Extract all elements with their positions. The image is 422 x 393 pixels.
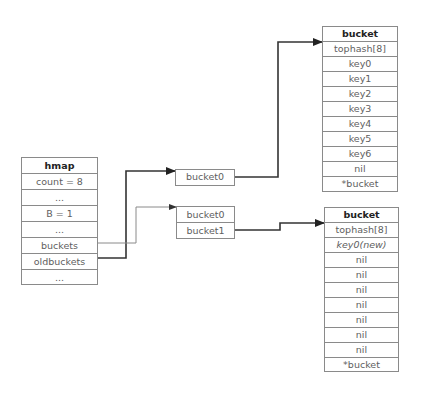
new-array-bucket1: bucket1 [177, 223, 234, 239]
bucket-title: bucket [323, 27, 397, 42]
old-bucket0-pointer [235, 42, 322, 177]
hmap-field-count: count = 8 [22, 174, 97, 190]
bucket-field-overflow: *bucket [325, 358, 398, 373]
bucket-field-key5: key5 [323, 132, 397, 147]
bucket-field-key1: key1 [323, 72, 397, 87]
buckets-pointer [98, 207, 176, 243]
hmap-field-ellipsis: ... [22, 190, 97, 206]
bucket-field-nil: nil [323, 162, 397, 177]
oldbuckets-pointer [98, 171, 175, 258]
old-array-bucket0: bucket0 [176, 170, 234, 185]
bucket-field-nil: nil [325, 313, 398, 328]
new-bucket-struct: bucket tophash[8] key0(new) nil nil nil … [324, 207, 399, 372]
bucket-field-key0: key0 [323, 57, 397, 72]
bucket-field-nil: nil [325, 283, 398, 298]
bucket-field-key2: key2 [323, 87, 397, 102]
bucket-field-nil: nil [325, 298, 398, 313]
bucket-field-key6: key6 [323, 147, 397, 162]
bucket-title: bucket [325, 208, 398, 223]
bucket-field-key0-new: key0(new) [325, 238, 398, 253]
bucket-field-nil: nil [325, 343, 398, 358]
new-array-bucket0: bucket0 [177, 207, 234, 223]
hmap-title: hmap [22, 158, 97, 174]
bucket-field-overflow: *bucket [323, 177, 397, 192]
hmap-field-buckets: buckets [22, 238, 97, 254]
bucket-field-nil: nil [325, 253, 398, 268]
bucket-field-tophash: tophash[8] [323, 42, 397, 57]
bucket-field-tophash: tophash[8] [325, 223, 398, 238]
bucket-field-nil: nil [325, 268, 398, 283]
bucket-field-key4: key4 [323, 117, 397, 132]
hmap-struct: hmap count = 8 ... B = 1 ... buckets old… [21, 157, 98, 285]
bucket-field-key3: key3 [323, 102, 397, 117]
new-bucket1-pointer [235, 223, 324, 230]
hmap-field-ellipsis: ... [22, 270, 97, 286]
bucket-field-nil: nil [325, 328, 398, 343]
hmap-field-ellipsis: ... [22, 222, 97, 238]
old-bucket-array: bucket0 [175, 169, 235, 186]
new-bucket-array: bucket0 bucket1 [176, 206, 235, 239]
old-bucket-struct: bucket tophash[8] key0 key1 key2 key3 ke… [322, 26, 398, 192]
hmap-field-b: B = 1 [22, 206, 97, 222]
hmap-field-oldbuckets: oldbuckets [22, 254, 97, 270]
